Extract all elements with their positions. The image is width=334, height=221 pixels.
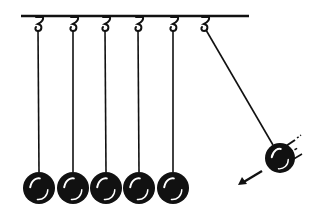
motion-line bbox=[286, 140, 295, 146]
newtons-cradle-illustration bbox=[0, 0, 334, 221]
hook-1 bbox=[35, 17, 43, 31]
hook-swinging bbox=[201, 17, 209, 31]
string-swinging bbox=[206, 30, 273, 145]
motion-line bbox=[297, 135, 301, 138]
hook-3 bbox=[102, 17, 110, 31]
hook-2 bbox=[70, 17, 78, 31]
cradle-drawing bbox=[0, 0, 334, 221]
string-1 bbox=[38, 30, 39, 172]
hook-5 bbox=[170, 17, 178, 31]
hook-4 bbox=[135, 17, 143, 31]
string-4 bbox=[138, 30, 139, 172]
string-3 bbox=[105, 30, 106, 172]
motion-arrow-shaft bbox=[242, 171, 262, 183]
